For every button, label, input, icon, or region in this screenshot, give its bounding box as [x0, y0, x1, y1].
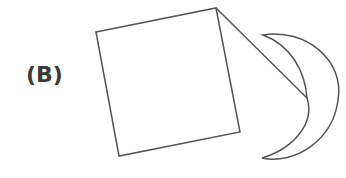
diagram-canvas	[0, 0, 346, 178]
connector-line	[216, 8, 307, 98]
crescent-shape	[262, 34, 339, 159]
tilted-square	[96, 8, 240, 156]
